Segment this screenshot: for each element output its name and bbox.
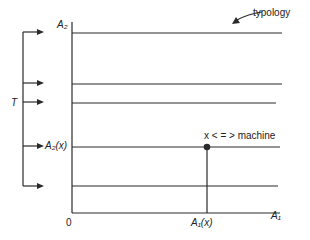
diagram-canvas: A₂ A₁ 0 T A₂(x) A₁(x) x < = > machine ty… — [0, 0, 310, 240]
arrow-icon — [37, 143, 44, 149]
arrow-icon — [37, 99, 44, 105]
diagram-graphics — [0, 0, 310, 240]
arrow-icon — [37, 183, 44, 189]
arrow-icon — [37, 80, 44, 86]
point-annotation: x < = > machine — [204, 131, 275, 141]
x-axis-label: A₁ — [271, 211, 281, 221]
bracket-label: T — [11, 98, 17, 108]
y-axis-label: A₂ — [57, 20, 67, 30]
origin-label: 0 — [66, 218, 72, 228]
x-tick-label: A₁(x) — [191, 218, 212, 228]
y-tick-label: A₂(x) — [45, 141, 67, 151]
callout-arrowhead-icon — [232, 17, 240, 24]
callout-label: typology — [253, 8, 290, 18]
arrow-icon — [37, 29, 44, 35]
data-point — [204, 144, 211, 151]
